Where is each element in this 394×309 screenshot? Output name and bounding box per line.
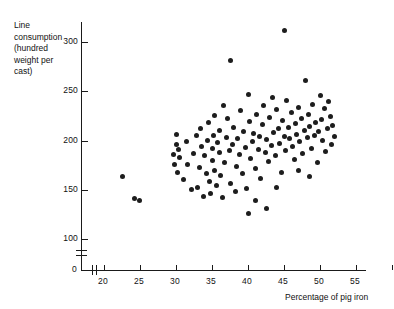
y-tick: [82, 141, 88, 142]
x-tick-label: 50: [314, 276, 324, 286]
x-tick: [140, 265, 141, 270]
scatter-chart: Line consumption (hundred weight per cas…: [0, 0, 394, 309]
origin-label: 0: [72, 264, 77, 274]
y-tick-label: 100: [60, 233, 78, 243]
y-tick-label: 300: [60, 36, 78, 46]
x-tick: [212, 265, 213, 270]
y-axis-line: [81, 22, 82, 270]
x-tick-label: 30: [170, 276, 180, 286]
x-tick-label: 40: [242, 276, 252, 286]
x-tick-label: 20: [98, 276, 108, 286]
y-tick: [82, 42, 88, 43]
x-tick-unlabeled: [392, 265, 393, 270]
x-axis-line: [81, 270, 366, 271]
x-tick-label: 55: [350, 276, 360, 286]
y-tick: [82, 190, 88, 191]
x-tick: [284, 265, 285, 270]
y-tick: [82, 239, 88, 240]
x-tick: [176, 265, 177, 270]
x-tick: [356, 265, 357, 270]
y-tick: [82, 91, 88, 92]
x-tick-label: 35: [206, 276, 216, 286]
x-tick: [104, 265, 105, 270]
axes: 02025303540455055100150200250300: [0, 0, 394, 309]
x-tick-label: 25: [134, 276, 144, 286]
x-tick: [248, 265, 249, 270]
y-tick-label: 250: [60, 85, 78, 95]
y-axis-break-mark-1: [76, 250, 87, 251]
y-axis-break-mark-2: [76, 255, 87, 256]
x-axis-break-mark-1: [92, 265, 93, 275]
x-tick: [320, 265, 321, 270]
x-axis-break-mark-2: [96, 265, 97, 275]
y-tick-label: 150: [60, 184, 78, 194]
y-tick-label: 200: [60, 135, 78, 145]
x-tick-label: 45: [278, 276, 288, 286]
